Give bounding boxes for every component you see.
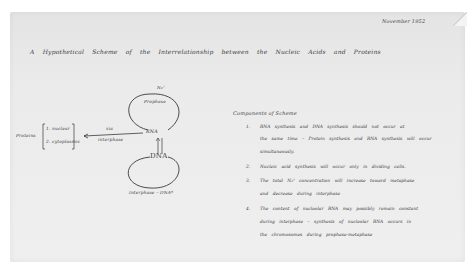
component-item-3-line-2: and decrease during interphase: [246, 191, 340, 196]
component-item-1-line-2: the same time – Protein synthesis and RN…: [246, 136, 432, 141]
rna-loop-label: Prophase: [144, 99, 166, 104]
protein-type-cytoplasmic: 2. cytoplasmic: [46, 139, 80, 144]
dna-node: DNA: [150, 152, 167, 160]
component-item-3: 3.The total N₂² concentration will incre…: [246, 178, 414, 183]
component-item-4-line-2: during interphase – synthesis of nucleol…: [246, 219, 411, 224]
component-item-1-line-3: simultaneously.: [246, 149, 294, 154]
component-item-4: 4.The content of nucleolar RNA may possi…: [246, 206, 418, 211]
rna-loop-top-label: N₂²: [157, 85, 165, 90]
arrow-label-top: via: [106, 126, 113, 131]
paper-sheet: November 1952 A Hypothetical Scheme of t…: [10, 12, 465, 262]
protein-type-nuclear: 1. nuclear: [46, 126, 70, 131]
component-item-1: 1.RNA synthesis and DNA synthesis should…: [246, 124, 404, 129]
protein-label: Proteins: [16, 133, 36, 138]
components-heading: Components of Scheme: [233, 110, 297, 116]
rna-node: RNA: [146, 129, 158, 134]
component-item-4-line-3: the chromosomes during prophase-metaphas…: [246, 232, 372, 237]
arrow-label-bottom: interphase: [98, 137, 123, 142]
dna-loop-label: Interphase – DNA*: [129, 190, 173, 195]
component-item-2: 2.Nucleic acid synthesis will occur only…: [246, 164, 406, 169]
